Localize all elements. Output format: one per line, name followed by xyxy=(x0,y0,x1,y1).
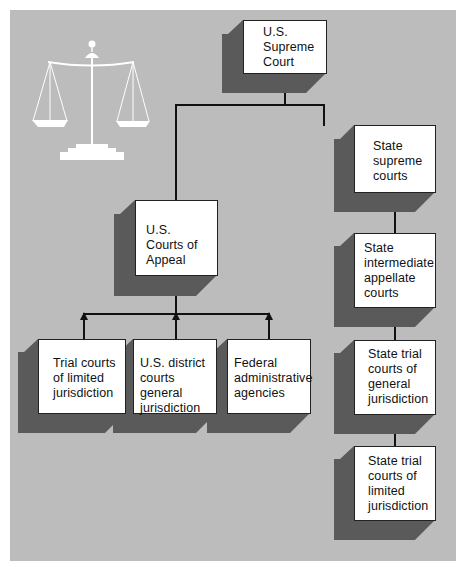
node-state-supreme-courts: State supreme courts xyxy=(354,125,436,193)
node-us-supreme-court: U.S. Supreme Court xyxy=(243,20,327,74)
node-state-trial-limited: State trial courts of limited jurisdicti… xyxy=(354,446,436,521)
node-state-intermediate-appellate: State intermediate appellate courts xyxy=(354,233,436,308)
node-us-district-courts: U.S. district courts general jurisdictio… xyxy=(133,339,217,414)
node-federal-agencies: Federal administrative agencies xyxy=(227,339,311,414)
node-state-trial-general: State trial courts of general jurisdicti… xyxy=(354,340,436,415)
node-us-courts-of-appeal: U.S. Courts of Appeal xyxy=(135,200,218,276)
node-trial-courts-limited: Trial courts of limited jurisdiction xyxy=(38,339,126,414)
